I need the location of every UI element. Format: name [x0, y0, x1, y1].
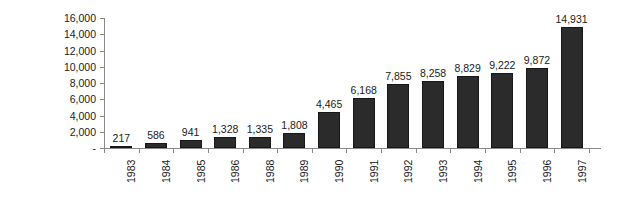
- bar: [526, 68, 548, 148]
- bar-value-label: 6,168: [337, 85, 391, 96]
- x-axis-tick-mark: [381, 149, 382, 153]
- x-axis-category-label: 1985: [196, 160, 207, 183]
- x-axis-category-label: 1995: [507, 160, 518, 183]
- y-axis-tick-mark: [100, 99, 104, 100]
- y-axis-tick-mark: [100, 34, 104, 35]
- bar: [180, 140, 202, 148]
- y-axis-line: [104, 18, 105, 148]
- x-axis-tick-mark: [243, 149, 244, 153]
- bar: [561, 27, 583, 148]
- x-axis-category-label: 1983: [126, 160, 137, 183]
- bar: [214, 137, 236, 148]
- bar-value-label: 9,872: [510, 55, 564, 66]
- x-axis-category-label: 1986: [230, 160, 241, 183]
- bar-value-label: 4,465: [302, 99, 356, 110]
- plot-area: 2175869411,3281,3351,8084,4656,1687,8558…: [104, 18, 601, 148]
- y-axis-tick-mark: [100, 18, 104, 19]
- x-axis-tick-mark: [139, 149, 140, 153]
- y-axis-tick-label: 14,000: [50, 29, 96, 39]
- x-axis-tick-mark: [416, 149, 417, 153]
- x-axis-category-label: 1997: [577, 160, 588, 183]
- x-axis-tick-mark: [520, 149, 521, 153]
- x-axis-category-label: 1993: [438, 160, 449, 183]
- bar: [249, 137, 271, 148]
- bar: [457, 76, 479, 148]
- x-axis-category-label: 1984: [161, 160, 172, 183]
- x-axis-tick-mark: [208, 149, 209, 153]
- y-axis-tick-mark: [100, 83, 104, 84]
- x-axis-category-label: 1991: [369, 160, 380, 183]
- y-axis-tick-label: 4,000: [50, 111, 96, 121]
- y-axis-tick-label: 12,000: [50, 46, 96, 56]
- x-axis-tick-mark: [346, 149, 347, 153]
- y-axis-tick-mark: [100, 51, 104, 52]
- x-axis-category-label: 1988: [265, 160, 276, 183]
- bar: [491, 73, 513, 148]
- y-axis-tick-mark: [100, 116, 104, 117]
- y-axis-tick-label: 10,000: [50, 62, 96, 72]
- x-axis-tick-mark: [173, 149, 174, 153]
- y-axis-tick-label: -: [50, 143, 96, 153]
- y-axis-tick-label: 16,000: [50, 13, 96, 23]
- x-axis-tick-mark: [589, 149, 590, 153]
- y-axis-tick-label: 2,000: [50, 127, 96, 137]
- y-axis-tick-mark: [100, 67, 104, 68]
- y-axis-tick-label: 8,000: [50, 78, 96, 88]
- x-axis-line: [104, 148, 601, 149]
- bar: [283, 133, 305, 148]
- x-axis-tick-mark: [104, 149, 105, 153]
- bar: [422, 81, 444, 148]
- bar-value-label: 14,931: [545, 14, 599, 25]
- x-axis-category-label: 1996: [542, 160, 553, 183]
- x-axis-tick-mark: [312, 149, 313, 153]
- y-axis-tick-labels: 16,00014,00012,00010,0008,0006,0004,0002…: [50, 18, 96, 148]
- y-axis-tick-label: 6,000: [50, 94, 96, 104]
- x-axis-tick-mark: [485, 149, 486, 153]
- x-axis-category-label: 1989: [299, 160, 310, 183]
- x-axis-category-label: 1992: [403, 160, 414, 183]
- bar-chart-figure: millions DM 16,00014,00012,00010,0008,00…: [0, 0, 630, 197]
- x-axis-tick-mark: [554, 149, 555, 153]
- x-axis-tick-mark: [277, 149, 278, 153]
- x-axis-category-label: 1994: [473, 160, 484, 183]
- x-axis-tick-mark: [450, 149, 451, 153]
- bar-value-label: 1,808: [267, 120, 321, 131]
- bar: [110, 146, 132, 148]
- x-axis-category-label: 1990: [334, 160, 345, 183]
